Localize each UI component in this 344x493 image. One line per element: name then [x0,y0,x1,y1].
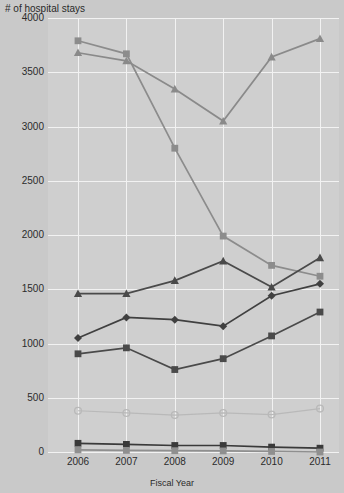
series-marker [122,313,130,321]
chart-series [74,280,324,342]
x-axis-tick-label: 2010 [247,456,297,467]
x-axis-tick-label: 2011 [295,456,344,467]
series-marker [171,316,179,324]
x-axis-tick-label: 2009 [198,456,248,467]
series-line [78,312,320,370]
series-marker [75,37,82,44]
series-marker [219,322,227,330]
y-axis-tick-label: 500 [0,393,44,403]
series-marker [316,280,324,288]
series-line [78,450,320,452]
series-marker [220,448,227,455]
series-marker [123,50,130,57]
series-marker [268,333,275,340]
y-axis-tick-label: 2000 [0,230,44,240]
series-marker [316,34,324,42]
series-layer [48,18,339,452]
chart-series [75,405,324,418]
chart-series [75,309,324,373]
series-line [78,41,320,276]
series-marker [220,233,227,240]
y-axis-tick-label: 0 [0,447,44,457]
series-marker [75,440,82,447]
series-line [78,443,320,448]
series-marker [268,283,276,291]
series-marker [74,49,82,57]
series-marker [123,447,130,454]
series-marker [316,254,324,262]
series-marker [317,449,324,456]
y-axis-tick-label: 3000 [0,122,44,132]
series-marker [219,257,227,265]
x-axis-label: Fiscal Year [0,478,344,488]
series-marker [123,441,130,448]
chart-root: # of hospital stays 05001000150020002500… [0,0,344,493]
series-marker [123,344,130,351]
y-axis-tick-label: 1000 [0,339,44,349]
chart-series [74,254,324,297]
series-line [78,258,320,294]
series-marker [171,145,178,152]
series-marker [75,446,82,453]
series-marker [220,355,227,362]
series-marker [268,292,276,300]
x-axis-tick-label: 2006 [53,456,103,467]
y-axis-tick-label: 3500 [0,67,44,77]
series-marker [74,334,82,342]
plot-area [48,18,339,452]
chart-series [74,34,324,124]
series-marker [171,85,179,93]
series-line [78,409,320,416]
series-marker [268,262,275,269]
series-marker [171,366,178,373]
series-marker [75,350,82,357]
chart-series [75,37,324,279]
y-axis-tick-label: 4000 [0,13,44,23]
x-axis-tick-label: 2008 [150,456,200,467]
series-marker [317,309,324,316]
x-axis-tick-label: 2007 [101,456,151,467]
series-marker [317,273,324,280]
y-axis-tick-label: 1500 [0,284,44,294]
series-marker [171,447,178,454]
y-axis-tick-label: 2500 [0,176,44,186]
series-marker [268,448,275,455]
